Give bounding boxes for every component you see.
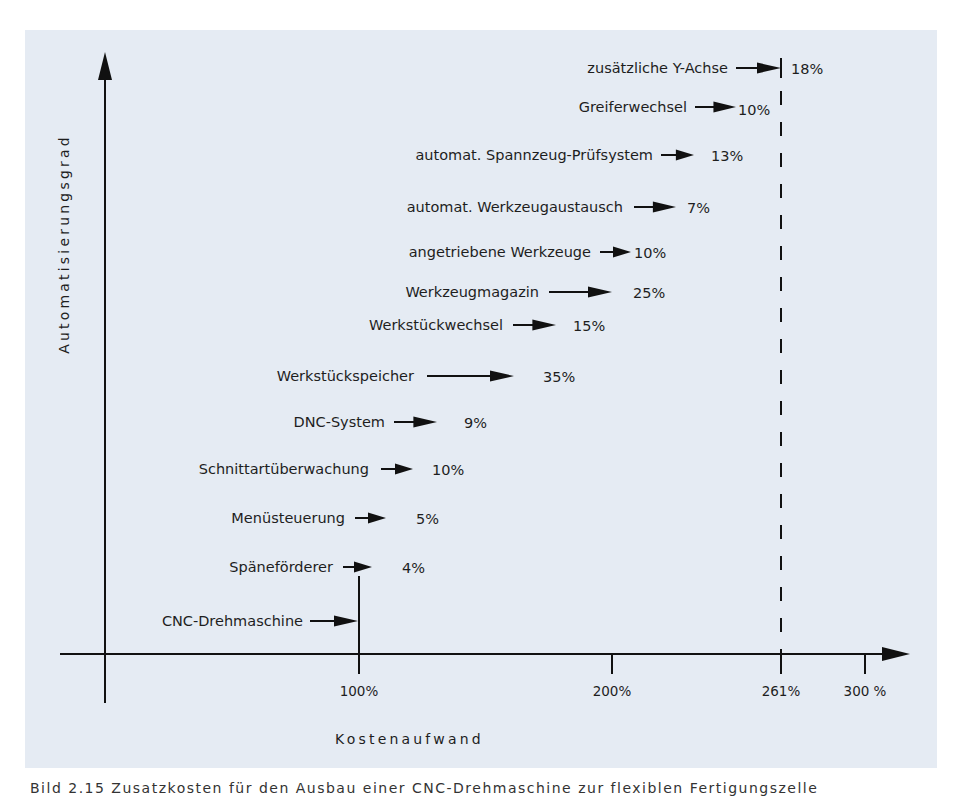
x-axis-title: Kostenaufwand bbox=[335, 731, 484, 747]
row-label: Schnittartüberwachung bbox=[199, 460, 369, 478]
row-label: Späneförderer bbox=[229, 558, 333, 576]
row-arrows bbox=[310, 58, 781, 627]
row-label: Werkstückspeicher bbox=[277, 367, 414, 385]
row-value: 10% bbox=[634, 244, 666, 262]
row-label: Werkzeugmagazin bbox=[405, 283, 539, 301]
arrow-right-icon bbox=[310, 616, 358, 627]
x-ticks bbox=[359, 654, 865, 674]
row-label: automat. Werkzeugaustausch bbox=[407, 198, 623, 216]
arrow-right-icon bbox=[661, 150, 694, 161]
x-tick-label: 300 % bbox=[844, 683, 887, 699]
row-value: 9% bbox=[464, 414, 487, 432]
row-label: automat. Spannzeug-Prüfsystem bbox=[415, 146, 653, 164]
row-value: 5% bbox=[416, 510, 439, 528]
arrow-right-icon bbox=[513, 320, 556, 331]
row-value: 25% bbox=[633, 284, 665, 302]
row-label: CNC-Drehmaschine bbox=[162, 612, 303, 630]
arrow-right-icon bbox=[427, 371, 514, 382]
figure-caption: Bild 2.15 Zusatzkosten für den Ausbau ei… bbox=[30, 780, 818, 796]
row-value: 4% bbox=[402, 559, 425, 577]
arrow-right-icon bbox=[695, 102, 736, 113]
row-value: 10% bbox=[432, 461, 464, 479]
row-label: DNC-System bbox=[294, 413, 385, 431]
arrow-right-icon bbox=[381, 464, 413, 475]
row-value: 7% bbox=[687, 199, 710, 217]
row-value: 10% bbox=[738, 101, 770, 119]
arrow-right-icon bbox=[549, 287, 612, 298]
arrow-right-icon bbox=[394, 417, 437, 428]
row-value: 18% bbox=[791, 60, 823, 78]
arrow-right-icon bbox=[736, 63, 781, 74]
x-axis-arrow-icon bbox=[882, 647, 910, 661]
row-value: 13% bbox=[711, 147, 743, 165]
row-label: Greiferwechsel bbox=[579, 98, 687, 116]
y-axis-title: Automatisierungsgrad bbox=[56, 134, 72, 354]
arrow-right-icon bbox=[600, 247, 631, 258]
x-tick-label: 261% bbox=[762, 683, 801, 699]
x-tick-label: 200% bbox=[593, 683, 632, 699]
row-label: Menüsteuerung bbox=[231, 509, 345, 527]
row-label: Werkstückwechsel bbox=[369, 316, 503, 334]
arrow-right-icon bbox=[634, 202, 676, 213]
y-axis-arrow-icon bbox=[98, 52, 112, 80]
x-tick-label: 100% bbox=[340, 683, 379, 699]
row-value: 15% bbox=[573, 317, 605, 335]
row-value: 35% bbox=[543, 368, 575, 386]
arrow-right-icon bbox=[355, 513, 386, 524]
arrow-right-icon bbox=[343, 562, 372, 573]
row-label: zusätzliche Y-Achse bbox=[587, 59, 728, 77]
row-label: angetriebene Werkzeuge bbox=[409, 243, 591, 261]
